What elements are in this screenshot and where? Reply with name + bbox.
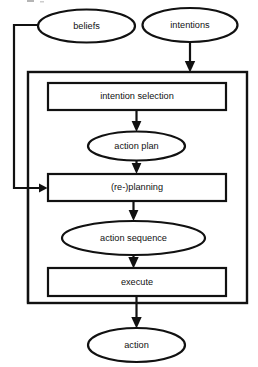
arrowhead-sequence-to-execute xyxy=(128,257,138,269)
arrowhead-execute-to-action xyxy=(131,317,141,329)
arrowhead-plan-to-replanning xyxy=(132,163,142,174)
node-re-planning: (re-)planning xyxy=(48,174,226,201)
node-beliefs: beliefs xyxy=(38,10,135,43)
re-planning-label: (re-)planning xyxy=(111,182,163,192)
action-sequence-label: action sequence xyxy=(100,233,167,243)
node-action-plan: action plan xyxy=(88,132,185,161)
arrowhead-intentions xyxy=(185,61,195,73)
node-execute: execute xyxy=(48,268,226,296)
node-intentions: intentions xyxy=(143,8,238,42)
edge-beliefs-feedback xyxy=(14,25,48,193)
edge-plan-to-replanning xyxy=(132,161,142,175)
execute-label: execute xyxy=(121,277,153,287)
edge-replanning-to-sequence xyxy=(129,201,139,221)
beliefs-label: beliefs xyxy=(73,21,100,31)
intentions-label: intentions xyxy=(170,20,210,30)
arrowhead-selection-to-plan xyxy=(132,121,142,132)
edge-container-feedback xyxy=(28,188,45,303)
edge-sequence-to-execute xyxy=(128,255,138,269)
action-plan-label: action plan xyxy=(114,141,158,151)
scan-artifacts xyxy=(27,0,44,3)
node-intention-selection: intention selection xyxy=(48,83,226,110)
diagram-canvas: beliefs intentions intention selection a… xyxy=(0,0,258,367)
edge-selection-to-plan xyxy=(132,110,142,132)
node-action-sequence: action sequence xyxy=(62,221,205,255)
edge-execute-to-action xyxy=(131,296,141,329)
arrowhead-replanning-to-sequence xyxy=(129,210,139,221)
intention-selection-label: intention selection xyxy=(100,91,174,101)
edge-intentions-to-container xyxy=(185,42,195,73)
action-label: action xyxy=(124,340,149,350)
node-action: action xyxy=(88,328,185,362)
flowchart-svg: beliefs intentions intention selection a… xyxy=(0,0,258,367)
